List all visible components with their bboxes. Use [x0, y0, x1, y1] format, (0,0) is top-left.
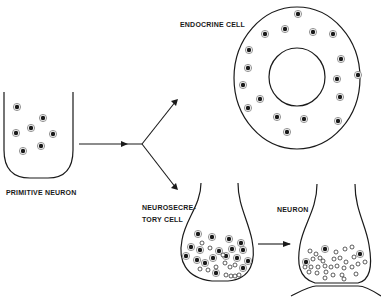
neuron-granules	[302, 245, 367, 281]
clear-vesicle	[311, 257, 315, 261]
dense-core	[338, 95, 342, 99]
label-neurosecretory-line1: NEUROSECRE-	[142, 204, 196, 211]
dense-core	[210, 235, 214, 239]
dense-core	[21, 149, 25, 153]
dense-core	[258, 97, 262, 101]
clear-vesicle	[233, 274, 237, 278]
arrowhead-icon	[171, 99, 178, 106]
clear-vesicle	[237, 273, 241, 277]
dense-core	[331, 32, 335, 36]
clear-vesicle	[221, 253, 225, 257]
clear-vesicle	[343, 247, 347, 251]
dense-core	[335, 77, 339, 81]
arrow-to-endocrine	[142, 99, 178, 144]
dense-core	[41, 116, 45, 120]
neuron-synaptic-cleft	[291, 286, 381, 296]
dense-core	[241, 266, 245, 270]
endocrine-cell-membrane	[234, 7, 360, 149]
dense-core	[285, 130, 289, 134]
clear-vesicle	[350, 245, 354, 249]
dense-core	[302, 117, 306, 121]
dense-core	[275, 115, 279, 119]
dense-core	[14, 131, 18, 135]
clear-vesicle	[342, 277, 346, 281]
clear-vesicle	[335, 264, 339, 268]
clear-vesicle	[303, 265, 307, 269]
clear-vesicle	[321, 259, 325, 263]
clear-vesicle	[344, 260, 348, 264]
dense-core	[358, 252, 362, 256]
dense-core	[246, 106, 250, 110]
dense-core	[311, 30, 315, 34]
dense-core	[241, 248, 245, 252]
clear-vesicle	[224, 273, 228, 277]
arrow-to-neurosecretory	[142, 144, 178, 190]
arrowhead-icon	[283, 241, 291, 247]
label-primitive-neuron: PRIMITIVE NEURON	[6, 189, 76, 196]
evolution-diagram: PRIMITIVE NEURON ENDOCRINE CELL NEUROSEC…	[0, 0, 381, 297]
dense-core	[227, 237, 231, 241]
clear-vesicle	[223, 261, 227, 265]
clear-vesicle	[233, 263, 237, 267]
neuron: NEURON	[277, 184, 381, 296]
endocrine-cell: ENDOCRINE CELL	[180, 7, 362, 149]
dense-core	[189, 245, 193, 249]
arrowhead-icon	[171, 183, 178, 190]
dense-core	[203, 261, 207, 265]
clear-vesicle	[198, 267, 202, 271]
neurosecretory-cell: NEUROSECRE- TORY CELL	[142, 183, 253, 281]
clear-vesicle	[229, 274, 233, 278]
clear-vesicle	[329, 265, 333, 269]
dense-core	[304, 260, 308, 264]
clear-vesicle	[308, 249, 312, 253]
endocrine-cell-nucleus	[269, 48, 325, 106]
clear-vesicle	[356, 262, 360, 266]
clear-vesicle	[314, 252, 318, 256]
arrowhead-icon	[121, 141, 128, 147]
clear-vesicle	[324, 270, 328, 274]
dense-core	[246, 66, 250, 70]
primitive-neuron-granules	[12, 103, 56, 154]
clear-vesicle	[352, 255, 356, 259]
label-neurosecretory-line2: TORY CELL	[142, 216, 183, 223]
clear-vesicle	[208, 246, 212, 250]
clear-vesicle	[307, 270, 311, 274]
clear-vesicle	[340, 273, 344, 277]
dense-core	[184, 254, 188, 258]
clear-vesicle	[228, 265, 232, 269]
clear-vesicle	[354, 272, 358, 276]
clear-vesicle	[323, 264, 327, 268]
dense-core	[214, 271, 218, 275]
dense-core	[198, 248, 202, 252]
dense-core	[323, 247, 327, 251]
dense-core	[51, 132, 55, 136]
dense-core	[39, 144, 43, 148]
dense-core	[336, 119, 340, 123]
clear-vesicle	[363, 260, 367, 264]
dense-core	[239, 241, 243, 245]
dense-core	[217, 249, 221, 253]
clear-vesicle	[334, 250, 338, 254]
dense-core	[246, 259, 250, 263]
dense-core	[211, 256, 215, 260]
clear-vesicle	[315, 271, 319, 275]
clear-vesicle	[332, 257, 336, 261]
dense-core	[263, 32, 267, 36]
clear-vesicle	[214, 265, 218, 269]
dense-core	[356, 73, 360, 77]
clear-vesicle	[323, 276, 327, 280]
dense-core	[283, 27, 287, 31]
dense-core	[29, 126, 33, 130]
clear-vesicle	[200, 241, 204, 245]
dense-core	[196, 232, 200, 236]
clear-vesicle	[331, 273, 335, 277]
dense-core	[195, 258, 199, 262]
label-endocrine-cell: ENDOCRINE CELL	[180, 21, 246, 28]
clear-vesicle	[338, 256, 342, 260]
clear-vesicle	[342, 266, 346, 270]
arrow-to-neuron	[258, 241, 291, 247]
neurosecretory-cell-granules	[182, 230, 251, 278]
dense-core	[230, 247, 234, 251]
dense-core	[241, 83, 245, 87]
dense-core	[247, 48, 251, 52]
